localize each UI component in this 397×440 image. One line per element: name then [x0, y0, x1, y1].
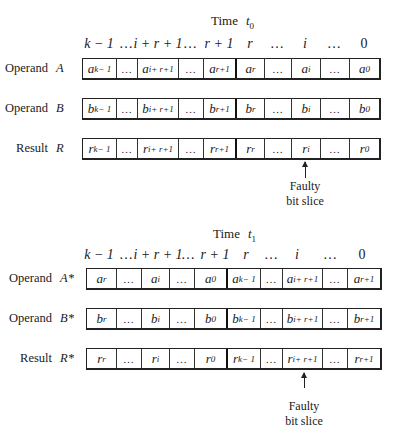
cell: br — [87, 309, 117, 328]
cell-faulty: ri — [292, 139, 321, 158]
cell: br — [237, 99, 265, 118]
cell: bk− 1 — [228, 309, 261, 328]
cell-ellipsis: … — [321, 99, 350, 118]
cell: br+1 — [348, 309, 380, 328]
time-label: Time — [211, 13, 238, 28]
bit-pos-0: 0 — [361, 36, 368, 52]
time-title-t1: Timet1 — [213, 226, 256, 244]
cell: ai+ r+1 — [283, 269, 323, 288]
register-result-r: rk− 1 … ri+ r+1 … rr+1 rr … ri … r0 — [82, 138, 381, 160]
cell: ak− 1 — [228, 269, 261, 288]
cell: ar+1 — [204, 59, 237, 78]
time-title-t0: Timet0 — [211, 13, 254, 31]
cell-ellipsis: … — [117, 269, 142, 288]
cell: bk− 1 — [83, 99, 117, 118]
cell-faulty: ri+ r+1 — [283, 349, 323, 368]
bit-pos-i: i — [303, 36, 307, 52]
bit-pos-r-1: r + 1 — [201, 247, 230, 263]
cell: ar — [87, 269, 117, 288]
bit-pos-dots: … — [119, 36, 133, 52]
cell-ellipsis: … — [170, 269, 195, 288]
cell: ak− 1 — [83, 59, 117, 78]
row-label-operand-b-star: OperandB* — [9, 311, 74, 326]
cell: ai+ r+1 — [138, 59, 179, 78]
register-operand-a: ak− 1 … ai+ r+1 … ar+1 ar … ai … a0 — [82, 58, 381, 80]
cell: ri — [142, 349, 170, 368]
bit-pos-dots: … — [264, 247, 278, 263]
register-operand-b-star: br … bi … b0 bk− 1 … bi+ r+1 … br+1 — [86, 308, 382, 330]
arrow-up-icon — [305, 162, 306, 178]
cell-ellipsis: … — [265, 59, 292, 78]
cell-ellipsis: … — [261, 309, 283, 328]
cell: r0 — [350, 139, 379, 158]
cell-ellipsis: … — [323, 309, 348, 328]
cell: ri+ r+1 — [138, 139, 179, 158]
cell-ellipsis: … — [265, 139, 292, 158]
cell-ellipsis: … — [117, 99, 138, 118]
cell: ar+1 — [348, 269, 380, 288]
register-operand-b: bk− 1 … bi+ r+1 … br+1 br … bi … b0 — [82, 98, 381, 120]
bit-pos-i-r-1: i + r + 1 — [133, 36, 182, 52]
cell-ellipsis: … — [261, 269, 283, 288]
cell: rr+1 — [204, 139, 237, 158]
cell-ellipsis: … — [179, 99, 204, 118]
cell: b0 — [195, 309, 228, 328]
cell-ellipsis: … — [261, 349, 283, 368]
cell: ai — [292, 59, 321, 78]
bit-pos-dots: … — [181, 247, 195, 263]
bit-pos-k-1: k − 1 — [84, 247, 114, 263]
cell: bi — [292, 99, 321, 118]
cell-ellipsis: … — [321, 139, 350, 158]
cell-ellipsis: … — [321, 59, 350, 78]
arrow-up-icon — [304, 373, 305, 388]
time-label: Time — [213, 226, 240, 241]
cell: rr+1 — [348, 349, 380, 368]
cell: r0 — [195, 349, 228, 368]
time-symbol: t1 — [248, 226, 256, 241]
time-symbol: t0 — [246, 13, 254, 28]
cell: bi — [142, 309, 170, 328]
bit-pos-dots: … — [270, 36, 284, 52]
bit-pos-0: 0 — [359, 247, 366, 263]
bit-pos-dots: … — [119, 247, 133, 263]
cell: a0 — [350, 59, 379, 78]
register-result-r-star: rr … ri … r0 rk− 1 … ri+ r+1 … rr+1 — [86, 348, 382, 370]
cell: rk− 1 — [83, 139, 117, 158]
row-label-operand-a-star: OperandA* — [9, 271, 74, 286]
cell: bi+ r+1 — [138, 99, 179, 118]
bit-pos-k-1: k − 1 — [84, 36, 114, 52]
bit-pos-r-1: r + 1 — [205, 36, 234, 52]
bit-pos-i-r-1: i + r + 1 — [133, 247, 182, 263]
cell: rk− 1 — [228, 349, 261, 368]
cell-ellipsis: … — [170, 349, 195, 368]
cell-ellipsis: … — [323, 349, 348, 368]
faulty-bit-slice-note: Faulty bit slice — [286, 179, 324, 209]
faulty-bit-slice-note: Faulty bit slice — [285, 399, 323, 429]
bit-pos-dots: … — [323, 247, 337, 263]
cell: br+1 — [204, 99, 237, 118]
cell: rr — [237, 139, 265, 158]
bit-pos-r: r — [243, 247, 248, 263]
cell: rr — [87, 349, 117, 368]
cell: b0 — [350, 99, 379, 118]
bit-pos-i: i — [295, 247, 299, 263]
row-label-result-r: ResultR — [16, 141, 70, 156]
cell-ellipsis: … — [117, 349, 142, 368]
cell-ellipsis: … — [323, 269, 348, 288]
cell: ar — [237, 59, 265, 78]
cell-ellipsis: … — [170, 309, 195, 328]
register-operand-a-star: ar … ai … a0 ak− 1 … ai+ r+1 … ar+1 — [86, 268, 382, 290]
cell: a0 — [195, 269, 228, 288]
cell-ellipsis: … — [179, 139, 204, 158]
row-label-operand-b: OperandB — [5, 101, 70, 116]
cell-ellipsis: … — [117, 309, 142, 328]
cell: ai — [142, 269, 170, 288]
cell-ellipsis: … — [179, 59, 204, 78]
cell-ellipsis: … — [265, 99, 292, 118]
row-label-result-r-star: ResultR* — [20, 351, 74, 366]
bit-pos-dots: … — [183, 36, 197, 52]
cell-ellipsis: … — [117, 59, 138, 78]
cell: bi+ r+1 — [283, 309, 323, 328]
cell-ellipsis: … — [117, 139, 138, 158]
bit-pos-r: r — [247, 36, 252, 52]
